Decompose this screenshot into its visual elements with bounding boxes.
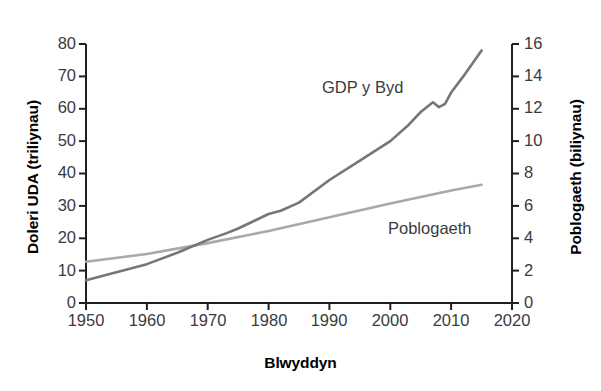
- chart-figure: Doleri UDA (triliynau) Poblogaeth (biliy…: [0, 0, 601, 391]
- y-axis-left-ticks: [79, 44, 86, 303]
- y-axis-right-ticks: [512, 44, 519, 303]
- gdp-line: [86, 50, 482, 280]
- plot-area: [0, 0, 601, 391]
- x-axis-ticks: [86, 303, 512, 310]
- population-line: [86, 185, 482, 262]
